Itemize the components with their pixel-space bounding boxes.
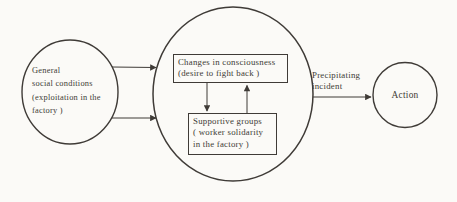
text-line: Precipitating: [312, 70, 360, 81]
text-line: Changes in consciousness: [178, 57, 275, 68]
text-line: (desire to fight back ): [178, 68, 275, 79]
text-line: Supportive groups: [193, 116, 263, 128]
arrow-conditions-to-ellipse-top: [112, 67, 156, 68]
text-line: in the factory ): [193, 139, 263, 151]
text-line: social conditions: [32, 77, 101, 90]
general-conditions-label: General social conditions (exploitation …: [32, 64, 101, 118]
text-line: incident: [312, 81, 360, 92]
text-line: ( worker solidarity: [193, 127, 263, 139]
text-line: factory ): [32, 104, 101, 117]
action-circle-label: Action: [373, 63, 437, 127]
precipitating-incident-label: Precipitating incident: [312, 70, 360, 92]
text-line: General: [32, 64, 101, 77]
sociology-flow-diagram: General social conditions (exploitation …: [0, 0, 457, 202]
text-line: (exploitation in the: [32, 91, 101, 104]
consciousness-box-label: Changes in consciousness (desire to figh…: [178, 57, 275, 79]
supportive-box-label: Supportive groups ( worker solidarity in…: [193, 116, 263, 151]
